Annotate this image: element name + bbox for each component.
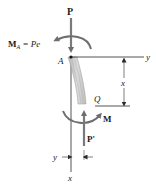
moment-m-arc xyxy=(63,111,100,123)
label-dimension-x: x xyxy=(120,78,125,88)
label-moment-m: M xyxy=(103,114,112,124)
label-axis-y-top: y xyxy=(145,52,150,62)
label-moment-ma: MA = Pe xyxy=(8,39,40,50)
column-free-body-diagram: P MA = Pe A y x Q M P' y x xyxy=(0,0,156,185)
label-load-p-prime: P' xyxy=(87,134,95,144)
label-load-p: P xyxy=(67,6,73,17)
moment-ma-arc xyxy=(56,36,91,49)
label-axis-x-bottom: x xyxy=(67,173,72,183)
label-point-q: Q xyxy=(94,94,101,104)
label-point-a: A xyxy=(57,56,64,66)
label-axis-y-bottom: y xyxy=(52,152,57,162)
